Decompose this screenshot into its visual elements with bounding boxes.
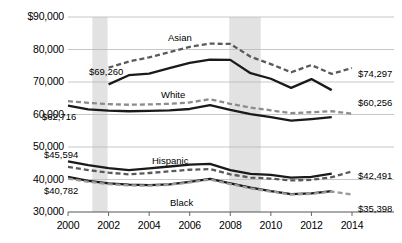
x-axis-tick-label: 2004 [129,219,169,231]
x-axis-tick-label: 2010 [251,219,291,231]
series-line-asian [109,60,332,91]
series-label-black: Black [170,197,193,208]
value-label: $69,260 [89,66,123,77]
value-label: $45,594 [44,149,78,160]
value-label: $40,782 [44,185,78,196]
y-axis-tick-label: 30,000 [33,205,64,217]
value-label: $74,297 [358,68,392,79]
x-axis-tick-label: 2000 [48,219,88,231]
y-axis-tick-label: 40,000 [33,173,64,185]
y-axis-tick-label: $90,000 [27,10,64,22]
value-label: $42,491 [358,170,392,181]
x-axis-tick-label: 2002 [89,219,129,231]
value-label: $62,716 [42,111,76,122]
series-label-hispanic: Hispanic [152,155,188,166]
x-axis-tick-label: 2012 [291,219,331,231]
value-label: $60,256 [358,97,392,108]
x-axis-tick-label: 2006 [170,219,210,231]
x-axis-tick-label: 2014 [332,219,372,231]
x-axis-tick-label: 2008 [210,219,250,231]
income-by-race-line-chart: $90,00080,00070,00060,00050,00040,00030,… [0,0,402,243]
series-label-asian: Asian [168,32,192,43]
value-label: $35,398 [358,203,392,214]
y-axis-tick-label: 80,000 [33,43,64,55]
y-axis-tick-label: 70,000 [33,75,64,87]
series-label-white: White [161,89,185,100]
